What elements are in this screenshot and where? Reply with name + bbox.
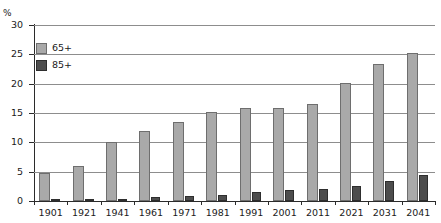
y-tick-label: 10: [0, 137, 34, 146]
y-tick-label-text: 0: [0, 196, 23, 205]
chart-legend: 65+85+: [36, 41, 72, 75]
x-tick-label: 1941: [101, 207, 134, 218]
x-tick-mark: [134, 201, 135, 205]
legend-swatch-icon: [36, 43, 47, 54]
x-tick-label: 2041: [402, 207, 435, 218]
x-tick-mark: [368, 201, 369, 205]
bar-65plus: [240, 108, 251, 201]
bar-85plus: [252, 192, 261, 201]
x-tick-mark: [268, 201, 269, 205]
x-tick-label: 1991: [235, 207, 268, 218]
legend-swatch-icon: [36, 60, 47, 71]
bar-65plus: [73, 166, 84, 201]
x-tick-label: 1981: [201, 207, 234, 218]
gridline: [34, 54, 435, 55]
x-tick-mark: [201, 201, 202, 205]
x-tick-label: 1901: [34, 207, 67, 218]
plot-area: [34, 25, 435, 201]
y-tick-label: 30: [0, 20, 34, 29]
y-tick-label-text: 25: [0, 49, 23, 58]
x-tick-mark: [168, 201, 169, 205]
gridline: [34, 25, 435, 26]
x-tick-label: 2001: [268, 207, 301, 218]
x-tick-label: 1971: [168, 207, 201, 218]
bar-65plus: [173, 122, 184, 201]
y-tick-label: 0: [0, 196, 34, 205]
bar-65plus: [206, 112, 217, 201]
bar-85plus: [285, 190, 294, 201]
y-tick-label-text: 10: [0, 137, 23, 146]
bar-85plus: [185, 196, 194, 201]
x-tick-label: 2011: [301, 207, 334, 218]
y-tick-label-text: 30: [0, 20, 23, 29]
bar-85plus: [151, 197, 160, 201]
x-tick-mark: [67, 201, 68, 205]
bar-65plus: [307, 104, 318, 201]
bar-65plus: [407, 53, 418, 201]
legend-item: 65+: [36, 41, 72, 55]
y-tick-label: 25: [0, 49, 34, 58]
bar-85plus: [385, 181, 394, 201]
bar-85plus: [352, 186, 361, 201]
x-tick-mark: [34, 201, 35, 205]
bar-85plus: [51, 199, 60, 201]
y-tick-label: 20: [0, 79, 34, 88]
x-tick-label: 1961: [134, 207, 167, 218]
x-tick-mark: [335, 201, 336, 205]
x-tick-mark: [301, 201, 302, 205]
legend-label: 65+: [52, 43, 72, 53]
y-tick-label-text: 5: [0, 167, 23, 176]
y-tick-label-text: 15: [0, 108, 23, 117]
bar-65plus: [273, 108, 284, 201]
legend-label: 85+: [52, 60, 72, 70]
y-tick-label: 15: [0, 108, 34, 117]
bar-65plus: [39, 173, 50, 201]
bar-chart: % 051015202530 1901192119411961197119811…: [0, 0, 441, 223]
y-tick-label: 5: [0, 167, 34, 176]
x-tick-mark: [435, 201, 436, 205]
bar-65plus: [139, 131, 150, 201]
x-tick-mark: [101, 201, 102, 205]
x-tick-label: 2031: [368, 207, 401, 218]
bar-65plus: [106, 142, 117, 201]
x-tick-mark: [235, 201, 236, 205]
x-tick-label: 1921: [67, 207, 100, 218]
bar-65plus: [373, 64, 384, 201]
bar-85plus: [419, 175, 428, 201]
x-tick-label: 2021: [335, 207, 368, 218]
bar-85plus: [118, 199, 127, 201]
y-tick-label-text: 20: [0, 79, 23, 88]
bar-65plus: [340, 83, 351, 201]
y-axis-unit-label: %: [3, 8, 12, 18]
bar-85plus: [218, 195, 227, 201]
x-tick-mark: [402, 201, 403, 205]
bar-85plus: [319, 189, 328, 201]
legend-item: 85+: [36, 58, 72, 72]
bar-85plus: [85, 199, 94, 201]
